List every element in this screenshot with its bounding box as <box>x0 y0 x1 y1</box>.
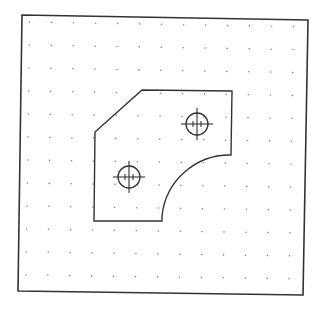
grid-dot <box>226 71 228 73</box>
grid-dot <box>94 91 96 93</box>
grid-dot <box>225 116 227 118</box>
grid-dot <box>51 45 53 47</box>
grid-dot <box>50 91 52 93</box>
grid-dot <box>181 139 183 141</box>
grid-dot <box>27 182 29 184</box>
grid-dot <box>201 277 203 279</box>
grid-dot <box>92 183 94 185</box>
grid-dot <box>158 184 160 186</box>
grid-dot <box>201 254 203 256</box>
grid-dot <box>267 232 269 234</box>
grid-dot <box>161 24 163 26</box>
grid-dot <box>47 252 49 254</box>
grid-dot <box>48 183 50 185</box>
grid-dot <box>114 184 116 186</box>
grid-dot <box>244 277 246 279</box>
grid-dot <box>270 48 272 50</box>
grid-dot <box>223 277 225 279</box>
grid-dots <box>25 21 294 279</box>
grid-dot <box>114 207 116 209</box>
grid-dot <box>135 276 137 278</box>
grid-dot <box>159 161 161 163</box>
grid-dot <box>71 137 73 139</box>
grid-dot <box>247 140 249 142</box>
grid-dot <box>72 45 74 47</box>
grid-dot <box>49 114 51 116</box>
grid-dot <box>94 45 96 47</box>
grid-dot <box>49 137 51 139</box>
grid-dot <box>137 138 139 140</box>
grid-dot <box>160 47 162 49</box>
grid-dot <box>292 95 294 97</box>
grid-dot <box>73 22 75 24</box>
grid-dot <box>203 162 205 164</box>
grid-dot <box>157 253 159 255</box>
grid-dot <box>266 278 268 280</box>
grid-dot <box>202 208 204 210</box>
grid-dot <box>137 115 139 117</box>
grid-dot <box>245 254 247 256</box>
grid-dot <box>183 24 185 26</box>
grid-dot <box>115 115 117 117</box>
grid-dot <box>47 275 49 277</box>
grid-dot <box>179 253 181 255</box>
grid-dot <box>293 26 295 28</box>
grid-dot <box>179 231 181 233</box>
grid-dot <box>115 138 117 140</box>
grid-dot <box>92 229 94 231</box>
grid-dot <box>29 44 31 46</box>
lower-hole <box>113 161 145 193</box>
grid-dot <box>28 67 30 69</box>
cad-drawing-canvas <box>0 0 323 310</box>
grid-dot <box>27 136 29 138</box>
grid-dot <box>292 72 294 74</box>
grid-dot <box>227 25 229 27</box>
grid-dot <box>248 71 250 73</box>
grid-dot <box>248 94 250 96</box>
grid-dot <box>182 93 184 95</box>
grid-dot <box>116 69 118 71</box>
upper-hole <box>181 108 213 140</box>
grid-dot <box>290 209 292 211</box>
grid-dot <box>26 228 28 230</box>
grid-dot <box>95 22 97 24</box>
grid-dot <box>138 69 140 71</box>
grid-dot <box>246 209 248 211</box>
grid-dot <box>113 276 115 278</box>
grid-dot <box>113 253 115 255</box>
grid-dot <box>160 92 162 94</box>
grid-dot <box>247 117 249 119</box>
grid-dot <box>25 251 27 253</box>
grid-dot <box>270 94 272 96</box>
grid-dot <box>289 232 291 234</box>
grid-dot <box>246 186 248 188</box>
grid-dot <box>117 23 119 25</box>
grid-dot <box>181 116 183 118</box>
grid-dot <box>225 139 227 141</box>
grid-dot <box>224 162 226 164</box>
grid-dot <box>27 159 29 161</box>
grid-dot <box>157 276 159 278</box>
grid-dot <box>115 161 117 163</box>
grid-dot <box>136 230 138 232</box>
grid-dot <box>94 68 96 70</box>
grid-dot <box>290 163 292 165</box>
grid-dot <box>25 274 27 276</box>
grid-dot <box>50 68 52 70</box>
grid-dot <box>245 232 247 234</box>
grid-dot <box>180 185 182 187</box>
grid-dot <box>48 229 50 231</box>
grid-dot <box>48 206 50 208</box>
grid-dot <box>223 231 225 233</box>
grid-dot <box>288 278 290 280</box>
grid-dot <box>139 23 141 25</box>
grid-dot <box>135 253 137 255</box>
grid-dot <box>51 22 53 24</box>
grid-dot <box>136 207 138 209</box>
grid-dot <box>72 68 74 70</box>
grid-dot <box>160 69 162 71</box>
drawing-frame <box>18 15 308 295</box>
grid-dot <box>270 71 272 73</box>
grid-dot <box>28 90 30 92</box>
grid-dot <box>226 48 228 50</box>
